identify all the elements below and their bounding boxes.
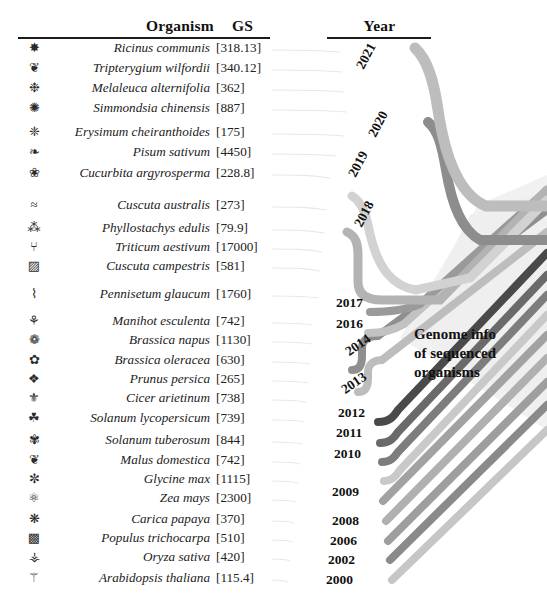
year-label-2011[interactable]: 2011 xyxy=(336,425,362,441)
year-label-2019[interactable]: 2019 xyxy=(345,148,372,179)
table-row[interactable]: ✾Solanum tuberosum[844] xyxy=(0,431,275,449)
organism-name: Melaleuca alternifolia xyxy=(52,79,210,97)
genome-size-value: [175] xyxy=(216,123,274,141)
organism-name: Carica papaya xyxy=(52,510,210,528)
genome-size-value: [1760] xyxy=(216,285,274,303)
table-row[interactable]: ✼Glycine max[1115] xyxy=(0,470,275,488)
genome-size-value: [738] xyxy=(216,389,274,407)
table-row[interactable]: ❧Pisum sativum[4450] xyxy=(0,143,275,161)
plant-pea-icon: ❧ xyxy=(19,143,49,159)
organism-name: Manihot esculenta xyxy=(52,312,210,330)
blurb-line-2: of sequenced xyxy=(414,344,534,363)
organism-name: Cicer arietinum xyxy=(52,389,210,407)
table-row[interactable]: ❀Cucurbita argyrosperma[228.8] xyxy=(0,164,275,182)
table-row[interactable]: ⚶Oryza sativa[420] xyxy=(0,548,275,566)
organism-name: Populus trichocarpa xyxy=(52,529,210,547)
table-row[interactable]: ❈Erysimum cheiranthoides[175] xyxy=(0,123,275,141)
year-label-2012[interactable]: 2012 xyxy=(338,405,365,421)
organism-name: Arabidopsis thaliana xyxy=(52,569,210,587)
genome-size-value: [739] xyxy=(216,409,274,427)
table-row[interactable]: ⚛Zea mays[2300] xyxy=(0,489,275,507)
table-row[interactable]: ≈Cuscuta australis[273] xyxy=(0,196,275,214)
year-label-2016[interactable]: 2016 xyxy=(336,316,363,332)
year-label-2013[interactable]: 2013 xyxy=(338,369,369,398)
table-row[interactable]: ❁Brassica napus[1130] xyxy=(0,331,275,349)
genome-size-value: [1115] xyxy=(216,470,274,488)
table-row[interactable]: ⚜Cicer arietinum[738] xyxy=(0,389,275,407)
plant-castor-icon: ✸ xyxy=(19,39,49,55)
genome-size-value: [4450] xyxy=(216,143,274,161)
plant-rice-icon: ⚶ xyxy=(19,548,49,564)
genome-info-figure: Organism GS Year ✸Ricinus communis[318.1… xyxy=(0,0,547,611)
table-row[interactable]: ✸Ricinus communis[318.13] xyxy=(0,39,275,57)
table-row[interactable]: ⁂Phyllostachys edulis[79.9] xyxy=(0,219,275,237)
organism-name: Erysimum cheiranthoides xyxy=(52,123,210,141)
plant-cassava-icon: ⚘ xyxy=(19,312,49,328)
plant-maize-icon: ⚛ xyxy=(19,489,49,505)
year-label-2006[interactable]: 2006 xyxy=(330,533,357,549)
plant-millet-icon: ⌇ xyxy=(19,285,49,301)
column-header-year: Year xyxy=(322,17,437,35)
organism-name: Cuscuta australis xyxy=(52,196,210,214)
plant-wheat-icon: ⑂ xyxy=(19,238,49,254)
plant-vine-icon: ❦ xyxy=(19,59,49,75)
table-row[interactable]: ✺Simmondsia chinensis[887] xyxy=(0,99,275,117)
organism-name: Pisum sativum xyxy=(52,143,210,161)
year-label-2014[interactable]: 2014 xyxy=(342,331,373,360)
table-row[interactable]: ❉Melaleuca alternifolia[362] xyxy=(0,79,275,97)
organism-name: Zea mays xyxy=(52,489,210,507)
table-row[interactable]: ▨Cuscuta campestris[581] xyxy=(0,257,275,275)
genome-size-value: [273] xyxy=(216,196,274,214)
table-row[interactable]: ⌇Pennisetum glaucum[1760] xyxy=(0,285,275,303)
table-row[interactable]: ⚘Manihot esculenta[742] xyxy=(0,312,275,330)
genome-size-value: [510] xyxy=(216,529,274,547)
column-header-gs: GS xyxy=(215,17,270,35)
plant-soybean-icon: ✼ xyxy=(19,470,49,486)
table-row[interactable]: ▩Populus trichocarpa[510] xyxy=(0,529,275,547)
year-label-2008[interactable]: 2008 xyxy=(332,513,359,529)
organism-name: Prunus persica xyxy=(52,370,210,388)
organism-name: Simmondsia chinensis xyxy=(52,99,210,117)
organism-name: Malus domestica xyxy=(52,451,210,469)
year-label-2010[interactable]: 2010 xyxy=(334,446,361,462)
year-label-2021[interactable]: 2021 xyxy=(353,40,380,71)
genome-size-value: [17000] xyxy=(216,238,274,256)
organism-name: Oryza sativa xyxy=(52,548,210,566)
plant-apple-icon: ❦ xyxy=(19,451,49,467)
genome-size-value: [370] xyxy=(216,510,274,528)
plant-poplar-icon: ▩ xyxy=(19,529,49,545)
year-label-2018[interactable]: 2018 xyxy=(351,198,378,229)
genome-size-value: [844] xyxy=(216,431,274,449)
genome-size-value: [115.4] xyxy=(216,569,274,587)
organism-name: Solanum lycopersicum xyxy=(52,409,210,427)
genome-size-value: [79.9] xyxy=(216,219,274,237)
year-label-2000[interactable]: 2000 xyxy=(326,572,353,588)
table-row[interactable]: ✿Brassica oleracea[630] xyxy=(0,351,275,369)
year-label-2002[interactable]: 2002 xyxy=(328,552,355,568)
organism-name: Glycine max xyxy=(52,470,210,488)
plant-bamboo-icon: ⁂ xyxy=(19,219,49,235)
year-label-2020[interactable]: 2020 xyxy=(365,108,392,139)
table-row[interactable]: ⑂Triticum aestivum[17000] xyxy=(0,238,275,256)
genome-size-value: [742] xyxy=(216,312,274,330)
plant-dodder-icon: ≈ xyxy=(19,196,49,212)
year-label-2009[interactable]: 2009 xyxy=(332,484,359,500)
genome-size-value: [265] xyxy=(216,370,274,388)
plant-squash-icon: ❀ xyxy=(19,164,49,180)
year-label-2017[interactable]: 2017 xyxy=(336,295,363,311)
table-row[interactable]: ☘Solanum lycopersicum[739] xyxy=(0,409,275,427)
genome-size-value: [742] xyxy=(216,451,274,469)
table-row[interactable]: ⚚Arabidopsis thaliana[115.4] xyxy=(0,569,275,587)
table-row[interactable]: ❖Prunus persica[265] xyxy=(0,370,275,388)
organism-name: Cucurbita argyrosperma xyxy=(52,164,210,182)
plant-arabidopsis-icon: ⚚ xyxy=(19,569,49,585)
header-rule-year xyxy=(327,37,431,39)
genome-size-value: [420] xyxy=(216,548,274,566)
plant-peach-icon: ❖ xyxy=(19,370,49,386)
table-row[interactable]: ❋Carica papaya[370] xyxy=(0,510,275,528)
genome-size-value: [340.12] xyxy=(216,59,274,77)
genome-size-value: [887] xyxy=(216,99,274,117)
table-row[interactable]: ❦Malus domestica[742] xyxy=(0,451,275,469)
organism-name: Cuscuta campestris xyxy=(52,257,210,275)
table-row[interactable]: ❦Tripterygium wilfordii[340.12] xyxy=(0,59,275,77)
